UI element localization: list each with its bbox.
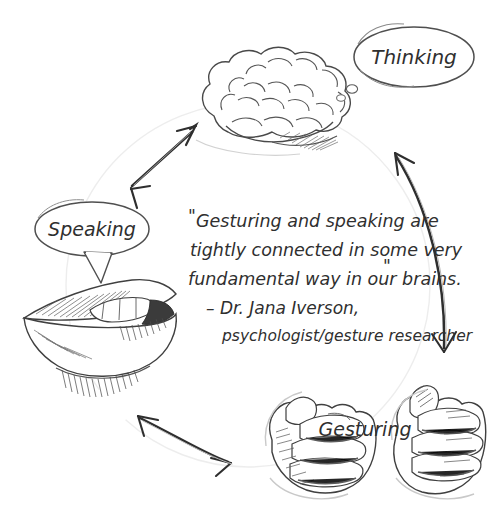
quote-attribution-name: – Dr. Jana Iverson, xyxy=(206,298,359,318)
quote-block: " Gesturing and speaking are tightly con… xyxy=(188,206,474,345)
quote-line-3: fundamental way in our brains. xyxy=(188,269,462,289)
quote-line-1: Gesturing and speaking are xyxy=(196,211,439,231)
quote-close-mark: " xyxy=(383,256,391,276)
brain-icon xyxy=(196,47,350,155)
left-hand-icon xyxy=(265,392,376,499)
speaking-label: Speaking xyxy=(48,218,136,240)
diagram-svg: Thinking Speaking xyxy=(0,0,497,527)
quote-open-mark: " xyxy=(188,206,196,226)
quote-attribution-role: psychologist/gesture researcher xyxy=(221,327,474,345)
speaking-bubble[interactable] xyxy=(35,200,149,283)
thinking-label: Thinking xyxy=(371,45,457,69)
quote-line-2: tightly connected in some very xyxy=(190,240,463,260)
mouth-lips-icon xyxy=(24,280,176,397)
gesturing-label: Gesturing xyxy=(319,418,412,440)
arrow-gesturing-speaking xyxy=(138,416,232,476)
right-hand-icon xyxy=(391,386,485,499)
sketch-diagram-canvas: Thinking Speaking xyxy=(0,0,497,527)
